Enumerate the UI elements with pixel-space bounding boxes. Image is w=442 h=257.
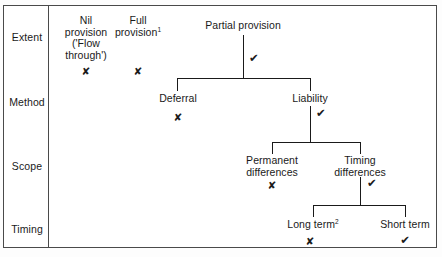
edge-to-timing-differences — [360, 142, 361, 154]
edge-liability-stem — [310, 106, 311, 142]
edge-partial-provision-stem — [243, 35, 244, 78]
mark-cross-deferral: ✘ — [142, 112, 214, 123]
diagram-canvas: Extent Method Scope Timing Nil provision… — [0, 0, 442, 257]
node-permanent-differences-line-2: differences — [228, 167, 316, 179]
row-label-scope: Scope — [5, 160, 49, 172]
node-timing-differences-line-1: Timing — [320, 155, 400, 167]
mark-tick-timing-differences: ✔ — [367, 178, 377, 189]
row-label-extent: Extent — [5, 31, 49, 43]
node-short-term-line-1: Short term — [366, 219, 442, 231]
edge-to-short-term — [405, 205, 406, 217]
node-partial-provision: Partial provision — [193, 20, 293, 32]
node-long-term: Long term2 — [273, 219, 353, 231]
node-deferral-line-1: Deferral — [142, 93, 214, 105]
edge-to-permanent-differences — [272, 142, 273, 154]
node-short-term: Short term — [366, 219, 442, 231]
node-full-provision: Full provision1 — [104, 15, 172, 38]
node-timing-differences: Timing differences — [320, 155, 400, 178]
edge-timing-crossbar — [313, 205, 405, 206]
edge-to-liability — [310, 78, 311, 91]
edge-timing-differences-stem — [360, 177, 361, 205]
node-full-provision-line-2: provision1 — [104, 27, 172, 39]
node-nil-provision-line-3: ('Flow — [52, 38, 120, 50]
node-partial-provision-line-1: Partial provision — [193, 20, 293, 32]
mark-tick-liability: ✔ — [316, 108, 326, 119]
node-deferral: Deferral — [142, 93, 214, 105]
row-label-timing: Timing — [5, 223, 49, 235]
mark-cross-long-term: ✘ — [270, 236, 350, 247]
row-label-method: Method — [5, 96, 49, 108]
edge-to-deferral — [177, 78, 178, 91]
edge-method-crossbar — [177, 78, 311, 79]
node-permanent-differences-line-1: Permanent — [228, 155, 316, 167]
mark-tick-short-term: ✔ — [366, 235, 442, 246]
footnote-ref-1: 1 — [157, 25, 161, 32]
mark-tick-partial-provision: ✔ — [249, 53, 259, 64]
node-nil-provision-line-4: through') — [52, 50, 120, 62]
footnote-ref-2: 2 — [335, 218, 339, 225]
node-long-term-line-1: Long term2 — [273, 219, 353, 231]
node-full-provision-text: provision — [115, 26, 157, 38]
mark-cross-full-provision: ✘ — [104, 66, 172, 77]
edge-scope-crossbar — [272, 142, 360, 143]
mark-cross-permanent-differences: ✘ — [228, 180, 316, 191]
node-liability-line-1: Liability — [274, 93, 346, 105]
node-liability: Liability — [274, 93, 346, 105]
edge-to-long-term — [313, 205, 314, 217]
node-permanent-differences: Permanent differences — [228, 155, 316, 178]
node-long-term-text: Long term — [287, 218, 335, 230]
